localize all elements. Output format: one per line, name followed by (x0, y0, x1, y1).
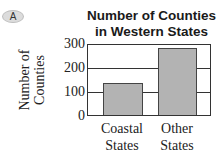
plot-area (87, 44, 211, 116)
y-tick-100: 100 (64, 85, 85, 99)
x-label-line: Other (152, 120, 202, 137)
chart-title: Number of Counties in Western States (80, 8, 223, 40)
x-label-other-states: Other States (152, 120, 202, 154)
badge-label: A (10, 11, 17, 22)
answer-choice-badge[interactable]: A (2, 10, 24, 23)
y-axis-label-line-1: Number of (17, 40, 32, 120)
bar-other-states (158, 48, 197, 115)
chart-title-line-1: Number of Counties (80, 8, 223, 24)
bar-coastal-states (103, 83, 143, 115)
y-tick-300: 300 (64, 37, 85, 51)
y-axis-label: Number of Counties (17, 40, 47, 120)
x-label-line: States (97, 137, 147, 154)
x-label-line: Coastal (97, 120, 147, 137)
y-tick-200: 200 (64, 61, 85, 75)
x-label-coastal-states: Coastal States (97, 120, 147, 154)
chart-title-line-2: in Western States (80, 24, 223, 40)
y-axis-label-line-2: Counties (32, 40, 47, 120)
x-label-line: States (152, 137, 202, 154)
y-tick-0: 0 (78, 109, 85, 123)
